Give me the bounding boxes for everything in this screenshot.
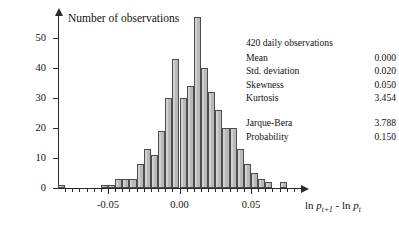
histogram-bar bbox=[201, 68, 208, 188]
histogram-bar bbox=[187, 86, 194, 188]
x-tick-mark bbox=[280, 188, 281, 192]
histogram-bar bbox=[280, 182, 287, 188]
stat-row-std-deviation: Std. deviation 0.020 bbox=[246, 64, 396, 78]
x-tick-mark bbox=[94, 188, 95, 192]
statistics-panel: 420 daily observations Mean 0.000 Std. d… bbox=[246, 36, 396, 143]
y-tick-label: 50 bbox=[0, 33, 46, 43]
x-tick-mark-major bbox=[251, 188, 252, 194]
stat-label-std-deviation: Std. deviation bbox=[246, 64, 299, 78]
histogram-figure: Number of observations 01020304050 -0.05… bbox=[0, 0, 399, 225]
stat-label-mean: Mean bbox=[246, 51, 268, 65]
x-tick-mark bbox=[287, 188, 288, 192]
stat-value-probability: 0.150 bbox=[362, 130, 396, 144]
x-tick-mark bbox=[208, 188, 209, 192]
histogram-bar bbox=[108, 185, 115, 188]
histogram-bar bbox=[258, 179, 265, 188]
histogram-bar bbox=[129, 179, 136, 188]
stat-value-mean: 0.000 bbox=[362, 51, 396, 65]
stat-row-kurtosis: Kurtosis 3.454 bbox=[246, 91, 396, 105]
x-tick-mark bbox=[187, 188, 188, 192]
stat-label-jarque-bera: Jarque-Bera bbox=[246, 116, 292, 130]
histogram-bar bbox=[208, 92, 215, 188]
y-tick-label: 0 bbox=[0, 183, 46, 193]
x-tick-mark bbox=[151, 188, 152, 192]
x-tick-mark bbox=[165, 188, 166, 192]
histogram-bar bbox=[165, 98, 172, 188]
x-tick-mark bbox=[258, 188, 259, 192]
x-tick-mark bbox=[137, 188, 138, 192]
x-tick-mark bbox=[172, 188, 173, 192]
stat-value-std-deviation: 0.020 bbox=[362, 64, 396, 78]
histogram-bar bbox=[137, 164, 144, 188]
x-axis-title-ln2: ln bbox=[342, 199, 351, 211]
observations-count: 420 daily observations bbox=[246, 36, 396, 50]
x-tick-mark bbox=[72, 188, 73, 192]
stat-row-probability: Probability 0.150 bbox=[246, 130, 396, 144]
stat-label-skewness: Skewness bbox=[246, 78, 284, 92]
stat-row-mean: Mean 0.000 bbox=[246, 51, 396, 65]
histogram-bar bbox=[222, 128, 229, 188]
x-tick-mark bbox=[101, 188, 102, 192]
histogram-bar bbox=[180, 98, 187, 188]
x-tick-label: 0.05 bbox=[221, 199, 281, 210]
x-tick-mark bbox=[201, 188, 202, 192]
histogram-bar bbox=[158, 131, 165, 188]
stats-divider bbox=[246, 105, 396, 116]
stat-value-jarque-bera: 3.788 bbox=[362, 116, 396, 130]
stat-row-jarque-bera: Jarque-Bera 3.788 bbox=[246, 116, 396, 130]
x-tick-label: -0.05 bbox=[78, 199, 138, 210]
x-tick-mark bbox=[244, 188, 245, 192]
stat-row-skewness: Skewness 0.050 bbox=[246, 78, 396, 92]
histogram-bar bbox=[244, 164, 251, 188]
stat-label-probability: Probability bbox=[246, 130, 289, 144]
x-tick-mark bbox=[158, 188, 159, 192]
y-tick-label: 10 bbox=[0, 153, 46, 163]
histogram-bar bbox=[101, 185, 108, 188]
x-tick-mark bbox=[230, 188, 231, 192]
x-axis-title-minus: - bbox=[335, 199, 339, 211]
x-tick-mark bbox=[272, 188, 273, 192]
y-tick-label: 20 bbox=[0, 123, 46, 133]
x-axis-title-ln1: ln bbox=[305, 199, 314, 211]
x-axis-title-sub1: t+1 bbox=[322, 205, 333, 214]
y-tick-mark bbox=[53, 188, 59, 189]
histogram-bar bbox=[251, 173, 258, 188]
histogram-bar bbox=[172, 59, 179, 188]
y-tick-label: 30 bbox=[0, 93, 46, 103]
x-tick-mark bbox=[65, 188, 66, 192]
x-tick-mark-major bbox=[108, 188, 109, 194]
x-tick-mark bbox=[122, 188, 123, 192]
histogram-bar bbox=[230, 128, 237, 188]
x-tick-mark bbox=[265, 188, 266, 192]
stat-value-kurtosis: 3.454 bbox=[362, 91, 396, 105]
x-tick-mark bbox=[237, 188, 238, 192]
x-tick-mark bbox=[215, 188, 216, 192]
histogram-bar bbox=[58, 185, 65, 188]
x-tick-mark bbox=[115, 188, 116, 192]
histogram-bar bbox=[215, 110, 222, 188]
x-tick-mark bbox=[79, 188, 80, 192]
histogram-bar bbox=[122, 179, 129, 188]
x-tick-label: 0.00 bbox=[150, 199, 210, 210]
x-tick-mark bbox=[222, 188, 223, 192]
x-tick-mark-major bbox=[180, 188, 181, 194]
histogram-bar bbox=[115, 179, 122, 188]
x-tick-mark bbox=[129, 188, 130, 192]
stat-value-skewness: 0.050 bbox=[362, 78, 396, 92]
stat-label-kurtosis: Kurtosis bbox=[246, 91, 279, 105]
x-tick-mark bbox=[87, 188, 88, 192]
x-axis-arrow-icon bbox=[301, 185, 309, 193]
x-axis-title-sub2: t bbox=[359, 205, 361, 214]
x-axis-title: ln pt+1 - ln pt bbox=[305, 199, 361, 216]
histogram-bar bbox=[237, 149, 244, 188]
x-tick-mark bbox=[294, 188, 295, 192]
y-tick-label: 40 bbox=[0, 63, 46, 73]
histogram-bar bbox=[144, 149, 151, 188]
histogram-bar bbox=[265, 182, 272, 188]
histogram-bar bbox=[151, 155, 158, 188]
x-tick-mark bbox=[144, 188, 145, 192]
x-tick-mark bbox=[194, 188, 195, 192]
histogram-bar bbox=[194, 17, 201, 188]
